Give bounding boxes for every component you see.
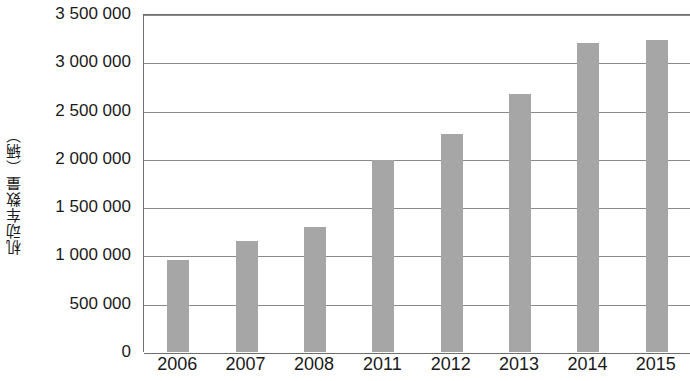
bar (304, 227, 326, 352)
bar-chart: 机动车数量（辆） 0500 0001 000 0001 500 0002 000… (0, 0, 690, 381)
bar (646, 40, 668, 352)
y-axis-tick-labels: 0500 0001 000 0001 500 0002 000 0002 500… (26, 0, 137, 381)
bar (236, 241, 258, 352)
x-axis-tick-label: 2014 (567, 354, 607, 375)
x-axis-tick-label: 2013 (499, 354, 539, 375)
y-axis-tick-label: 1 500 000 (55, 197, 131, 217)
y-axis-tick-label: 1 000 000 (55, 245, 131, 265)
bar (509, 94, 531, 352)
x-axis-tick-label: 2015 (636, 354, 676, 375)
y-axis-title: 机动车数量（辆） (0, 0, 26, 381)
y-axis-tick-label: 2 000 000 (55, 149, 131, 169)
bar (441, 134, 463, 352)
bar (372, 160, 394, 352)
y-axis-tick-label: 2 500 000 (55, 101, 131, 121)
plot-area (143, 14, 690, 352)
x-axis-tick-label: 2011 (363, 354, 402, 375)
bars-layer (144, 15, 690, 352)
y-axis-tick-label: 500 000 (70, 294, 131, 314)
x-axis-tick-label: 2008 (294, 354, 334, 375)
bar (577, 43, 599, 352)
y-axis-tick-label: 0 (122, 342, 131, 362)
x-axis-tick-label: 2012 (431, 354, 471, 375)
y-axis-tick-label: 3 000 000 (55, 52, 131, 72)
y-axis-title-label: 机动车数量（辆） (6, 127, 21, 255)
bar (167, 260, 189, 352)
y-axis-tick-label: 3 500 000 (55, 4, 131, 24)
x-axis-tick-label: 2007 (226, 354, 266, 375)
x-axis-tick-label: 2006 (157, 354, 197, 375)
x-axis-tick-labels: 20062007200820112012201320142015 (143, 354, 690, 381)
